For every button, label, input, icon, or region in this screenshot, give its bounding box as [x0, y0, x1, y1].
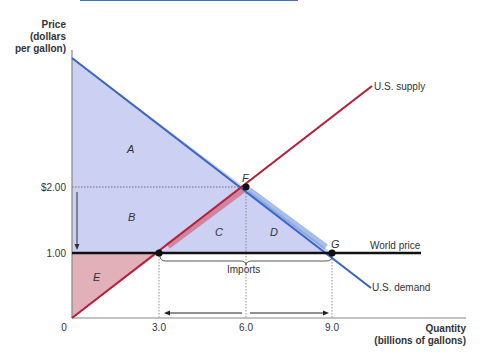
area-a-label: A — [126, 143, 134, 155]
tariff-chart: Price (dollars per gallon) Quantity (bil… — [0, 0, 486, 358]
supply-label: U.S. supply — [374, 81, 425, 92]
demand-label: U.S. demand — [372, 282, 430, 293]
x-tick-0: 0 — [61, 322, 67, 333]
point-3 — [155, 249, 162, 256]
imports-label: Imports — [227, 264, 260, 275]
x-axis-title-1: Quantity — [425, 323, 466, 334]
qty-supply-arrowhead — [164, 311, 170, 316]
point-g — [328, 249, 335, 256]
point-f — [242, 183, 249, 190]
y-tick-1: 1.00 — [47, 248, 67, 259]
y-tick-2: $2.00 — [41, 182, 66, 193]
area-b-label: B — [128, 211, 135, 223]
x-axis-title-2: (billions of gallons) — [374, 335, 466, 346]
y-axis-title-3: per gallon) — [15, 43, 66, 54]
area-c-label: C — [215, 226, 223, 238]
y-axis-title-1: Price — [42, 19, 67, 30]
area-e-label: E — [93, 271, 101, 283]
x-tick-6: 6.0 — [239, 322, 253, 333]
area-d-label: D — [270, 226, 278, 238]
qty-demand-arrowhead — [323, 311, 329, 316]
y-axis-title-2: (dollars — [30, 31, 67, 42]
x-tick-9: 9.0 — [325, 322, 339, 333]
point-g-label: G — [331, 238, 340, 250]
world-price-label: World price — [370, 240, 421, 251]
x-tick-3: 3.0 — [152, 322, 166, 333]
